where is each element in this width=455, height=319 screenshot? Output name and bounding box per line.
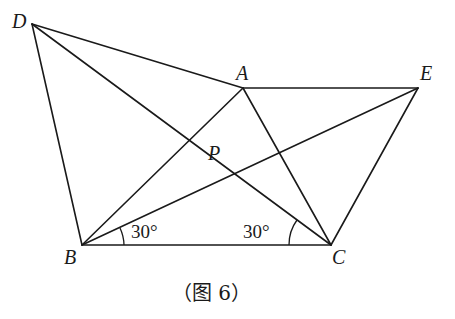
point-label-A: A [234, 62, 249, 84]
figure-caption: （图 6） [172, 281, 251, 305]
segment-DA [32, 24, 243, 88]
point-label-E: E [419, 62, 432, 84]
angle-arc-B [120, 228, 124, 245]
segment-EC [331, 88, 418, 245]
angle-label-B: 30° [131, 221, 158, 242]
segment-DB [32, 24, 82, 245]
point-label-D: D [11, 10, 27, 32]
point-label-C: C [332, 246, 346, 268]
segment-AB [82, 88, 243, 245]
angle-arc-C [289, 220, 297, 245]
segment-DC [32, 24, 331, 245]
point-label-B: B [64, 246, 76, 268]
geometry-diagram: D A E P B C 30° 30° （图 6） [0, 0, 455, 319]
point-label-P: P [207, 142, 220, 164]
angle-label-C: 30° [243, 221, 270, 242]
